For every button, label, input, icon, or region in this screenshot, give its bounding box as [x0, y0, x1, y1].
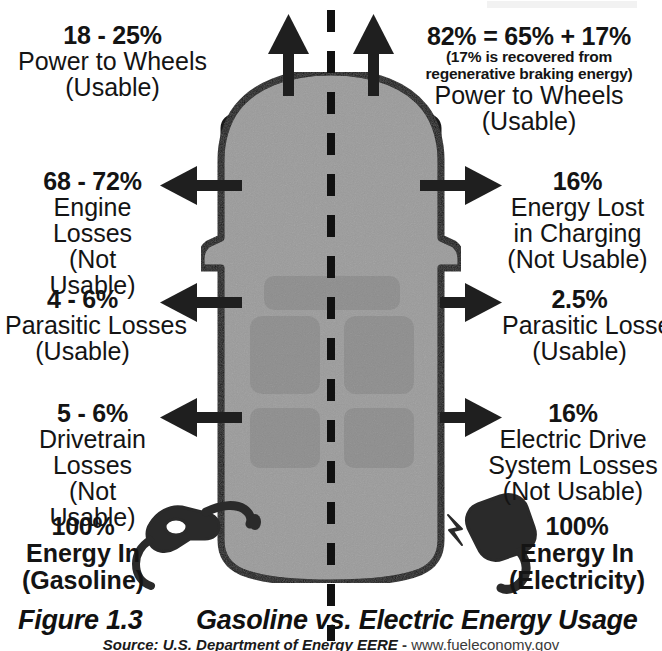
value-right-parasitic-losses: 2.5%	[502, 286, 657, 312]
text-left-drivetrain-losses-line2: Losses	[25, 452, 160, 478]
value-left-drivetrain-losses: 5 - 6%	[25, 400, 160, 426]
text-left-engine-losses-line2: Losses	[25, 220, 160, 246]
text-right-power-to-wheels-line1: Power to Wheels	[400, 82, 658, 108]
energy-usage-figure: 18 - 25% Power to Wheels (Usable) 68 - 7…	[0, 0, 662, 651]
label-left-power-to-wheels: 18 - 25% Power to Wheels (Usable)	[10, 22, 215, 100]
value-right-energy-lost-charging: 16%	[500, 168, 655, 194]
label-right-parasitic-losses: 2.5% Parasitic Losses (Usable)	[502, 286, 657, 364]
arrow-up-gasoline	[268, 14, 309, 96]
value-left-power-to-wheels: 18 - 25%	[10, 22, 215, 48]
text-left-energy-in-line1: Energy In	[8, 540, 158, 567]
text-right-charging-line3: (Not Usable)	[500, 246, 655, 272]
text-right-regen-note-line2: regenerative braking energy)	[400, 66, 658, 83]
figure-source-url[interactable]: www.fueleconomy.gov	[411, 636, 559, 651]
arrow-right-parasitic-losses	[440, 283, 502, 322]
car-body	[201, 72, 461, 583]
label-left-engine-losses: 68 - 72% Engine Losses (Not Usable)	[25, 168, 160, 298]
text-right-charging-line2: in Charging	[500, 220, 655, 246]
text-left-power-to-wheels-line2: (Usable)	[10, 74, 215, 100]
value-right-energy-in: 100%	[497, 513, 657, 540]
label-right-electric-drive-losses: 16% Electric Drive System Losses (Not Us…	[488, 400, 658, 504]
text-right-energy-in-line2: (Electricity)	[497, 567, 657, 594]
scan-artifact	[487, 1, 637, 8]
text-left-energy-in-line2: (Gasoline)	[8, 567, 158, 594]
text-left-power-to-wheels-line1: Power to Wheels	[10, 48, 215, 74]
text-right-charging-line1: Energy Lost	[500, 194, 655, 220]
interior-shading	[250, 276, 414, 468]
figure-title: Gasoline vs. Electric Energy Usage	[196, 605, 638, 636]
label-left-drivetrain-losses: 5 - 6% Drivetrain Losses (Not Usable)	[25, 400, 160, 530]
label-right-energy-lost-charging: 16% Energy Lost in Charging (Not Usable)	[500, 168, 655, 272]
text-right-electric-drive-line3: (Not Usable)	[488, 478, 658, 504]
arrow-right-charging-loss	[420, 166, 502, 205]
figure-number: Figure 1.3	[18, 605, 143, 636]
value-left-energy-in: 100%	[8, 513, 158, 540]
text-left-parasitic-losses-line2: (Usable)	[5, 338, 160, 364]
figure-source: Source: U.S. Department of Energy EERE -…	[0, 636, 662, 651]
text-right-parasitic-losses-line2: (Usable)	[502, 338, 657, 364]
arrow-up-electric	[353, 14, 394, 96]
figure-source-dash: -	[398, 636, 411, 651]
text-right-power-to-wheels-line2: (Usable)	[400, 108, 658, 134]
value-right-electric-drive-losses: 16%	[488, 400, 658, 426]
text-left-drivetrain-losses-line1: Drivetrain	[25, 426, 160, 452]
text-right-energy-in-line1: Energy In	[497, 540, 657, 567]
text-right-electric-drive-line1: Electric Drive	[488, 426, 658, 452]
figure-source-prefix: Source: U.S. Department of Energy EERE	[103, 636, 398, 651]
label-left-parasitic-losses: 4 - 6% Parasitic Losses (Usable)	[5, 286, 160, 364]
value-left-engine-losses: 68 - 72%	[25, 168, 160, 194]
label-right-energy-in: 100% Energy In (Electricity)	[497, 513, 657, 593]
value-right-power-to-wheels: 82% = 65% + 17%	[400, 23, 658, 49]
label-left-energy-in: 100% Energy In (Gasoline)	[8, 513, 158, 593]
label-right-power-to-wheels: 82% = 65% + 17% (17% is recovered from r…	[400, 23, 658, 134]
arrow-left-engine-losses	[160, 166, 242, 205]
value-left-parasitic-losses: 4 - 6%	[5, 286, 160, 312]
text-right-electric-drive-line2: System Losses	[488, 452, 658, 478]
text-right-regen-note-line1: (17% is recovered from	[400, 49, 658, 66]
figure-caption: Figure 1.3 Gasoline vs. Electric Energy …	[0, 605, 662, 651]
text-right-parasitic-losses-line1: Parasitic Losses	[502, 312, 657, 338]
tires	[222, 115, 440, 537]
arrow-left-drivetrain-losses	[160, 398, 242, 437]
text-left-engine-losses-line1: Engine	[25, 194, 160, 220]
text-left-parasitic-losses-line1: Parasitic Losses	[5, 312, 160, 338]
